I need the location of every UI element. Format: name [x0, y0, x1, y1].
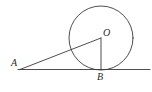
point-label-o: O [103, 28, 110, 38]
secant-line-a-to-o [20, 38, 101, 70]
geometry-canvas [0, 0, 152, 92]
geometry-figure: A O B [0, 0, 152, 92]
point-label-a: A [11, 58, 17, 68]
point-label-b: B [97, 72, 103, 82]
